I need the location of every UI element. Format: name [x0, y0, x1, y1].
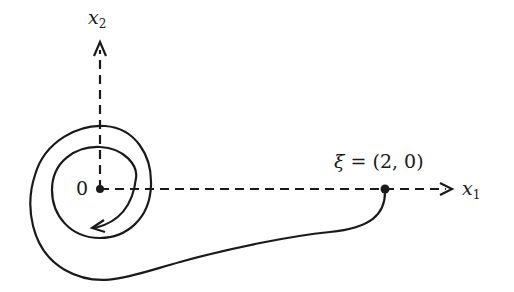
- phase-diagram: [0, 0, 514, 292]
- x2-axis-label: x2: [88, 6, 106, 31]
- xi-point-label: ξ = (2, 0): [334, 150, 424, 172]
- xi-point-dot: [381, 185, 390, 194]
- x1-axis-label: x1: [462, 177, 480, 202]
- trajectory-curve: [30, 126, 385, 280]
- origin-label: 0: [76, 177, 88, 199]
- origin-dot: [96, 185, 104, 193]
